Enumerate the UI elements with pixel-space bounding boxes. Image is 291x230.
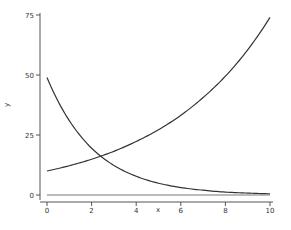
series-line — [47, 77, 270, 193]
series-line — [47, 17, 270, 171]
axes: 02550750246810 — [25, 12, 274, 216]
x-tick-label: 0 — [45, 207, 49, 215]
x-tick-label: 10 — [266, 207, 275, 215]
y-tick-label: 75 — [25, 12, 34, 20]
x-tick-label: 2 — [89, 207, 93, 215]
y-tick-label: 0 — [30, 192, 34, 200]
line-chart: 02550750246810 x y — [0, 0, 291, 230]
y-axis-label: y — [3, 103, 11, 107]
x-tick-label: 6 — [179, 207, 184, 215]
plot-lines — [47, 17, 270, 195]
y-tick-label: 25 — [25, 132, 34, 140]
x-tick-label: 8 — [223, 207, 227, 215]
x-tick-label: 4 — [134, 207, 139, 215]
y-tick-label: 50 — [25, 72, 34, 80]
x-axis-label: x — [156, 206, 160, 214]
